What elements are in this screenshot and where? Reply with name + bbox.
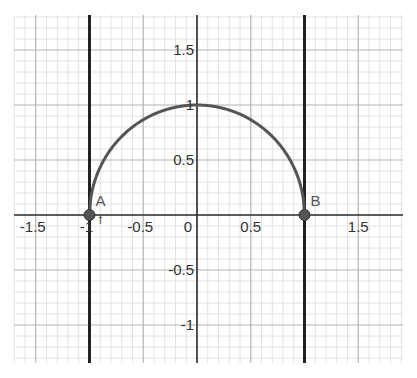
y-tick-label: 1 (186, 96, 194, 113)
x-tick-label: -1.5 (20, 218, 46, 235)
x-tick-label: -0.5 (127, 218, 153, 235)
y-tick-label: -1 (181, 316, 194, 333)
y-tick-labels: 1.510.5-0.5-1 (168, 41, 194, 333)
y-tick-label: 0.5 (173, 151, 194, 168)
points[interactable]: AB (84, 192, 321, 221)
minor-grid (14, 15, 403, 363)
point-a[interactable] (84, 210, 95, 221)
x-tick-label: 1.5 (348, 218, 369, 235)
x-tick-label: 0 (184, 218, 192, 235)
x-tick-label: 0.5 (240, 218, 261, 235)
point-b[interactable] (299, 210, 310, 221)
y-tick-label: 1.5 (173, 41, 194, 58)
graph-view[interactable]: -1.5-1-0.500.51.5 1.510.5-0.5-1 AB f (0, 0, 417, 378)
point-label-b: B (311, 192, 321, 209)
axes (14, 15, 403, 363)
major-grid (14, 15, 403, 363)
point-label-a: A (96, 192, 106, 209)
y-tick-label: -0.5 (168, 261, 194, 278)
